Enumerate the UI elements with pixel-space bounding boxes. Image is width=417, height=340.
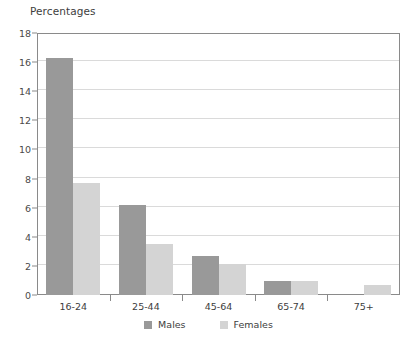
gridline: [38, 206, 399, 207]
y-axis-tick: [32, 265, 37, 266]
y-axis-label: 0: [25, 290, 31, 301]
x-axis-label: 25-44: [132, 301, 160, 312]
y-axis-tick: [32, 178, 37, 179]
y-axis: 024681012141618: [0, 33, 31, 295]
y-axis-label: 2: [25, 260, 31, 271]
legend-label: Males: [158, 319, 185, 330]
x-axis-label: 75+: [354, 301, 374, 312]
gridline: [38, 118, 399, 119]
y-axis-label: 8: [25, 173, 31, 184]
y-axis-tick: [32, 91, 37, 92]
chart-title: Percentages: [30, 5, 96, 17]
x-axis-label: 45-64: [205, 301, 233, 312]
gridline: [38, 235, 399, 236]
legend-item: Males: [144, 319, 185, 330]
legend-label: Females: [234, 319, 273, 330]
chart-legend: MalesFemales: [0, 319, 417, 330]
gridline: [38, 264, 399, 265]
y-axis-label: 6: [25, 202, 31, 213]
gridline: [38, 177, 399, 178]
plot-area: [37, 33, 400, 295]
percentages-bar-chart: Percentages 024681012141618 16-2425-4445…: [0, 0, 417, 340]
y-axis-label: 4: [25, 231, 31, 242]
y-axis-tick: [32, 33, 37, 34]
y-axis-tick: [32, 236, 37, 237]
legend-swatch-icon: [220, 321, 228, 329]
legend-swatch-icon: [144, 321, 152, 329]
y-axis-label: 12: [19, 115, 31, 126]
y-axis-label: 18: [19, 28, 31, 39]
gridline: [38, 147, 399, 148]
y-axis-tick: [32, 149, 37, 150]
y-axis-tick: [32, 120, 37, 121]
y-axis-tick: [32, 62, 37, 63]
y-axis-label: 14: [19, 86, 31, 97]
x-axis-label: 65-74: [277, 301, 305, 312]
y-axis-label: 10: [19, 144, 31, 155]
gridline: [38, 60, 399, 61]
legend-item: Females: [220, 319, 273, 330]
y-axis-label: 16: [19, 57, 31, 68]
x-axis-label: 16-24: [59, 301, 87, 312]
gridline: [38, 89, 399, 90]
y-axis-tick: [32, 207, 37, 208]
x-axis: 16-2425-4445-6465-7475+: [37, 301, 400, 317]
